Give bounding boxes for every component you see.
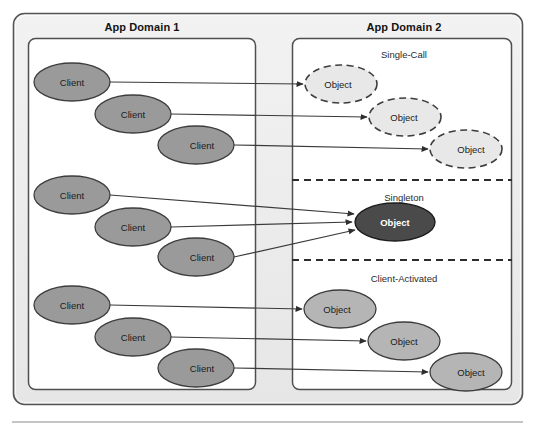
object-node-single-call-1[interactable] [305,65,377,103]
client-node-1[interactable] [34,63,110,101]
client-node-4[interactable] [34,176,110,214]
object-node-client-activated-3[interactable] [430,353,502,391]
client-node-3[interactable] [158,126,234,164]
object-node-client-activated-1[interactable] [304,290,376,328]
client-node-6[interactable] [158,238,234,276]
object-node-single-call-2[interactable] [369,98,441,136]
object-node-single-call-3[interactable] [430,130,502,168]
diagram-vector-layer [0,0,535,426]
object-node-singleton[interactable] [355,203,435,241]
client-node-5[interactable] [95,208,171,246]
client-node-7[interactable] [34,286,110,324]
client-node-2[interactable] [95,95,171,133]
diagram-canvas: App Domain 1 App Domain 2 Single-Call Si… [0,0,535,426]
object-node-client-activated-2[interactable] [368,322,440,360]
client-node-8[interactable] [95,318,171,356]
client-node-9[interactable] [158,349,234,387]
